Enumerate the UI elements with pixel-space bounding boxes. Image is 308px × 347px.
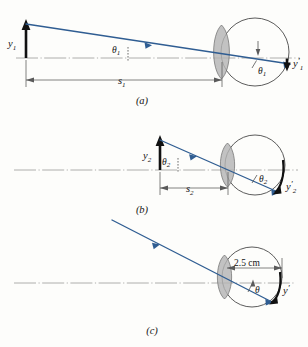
angle-label-a: θ1 (112, 45, 120, 57)
object-label-b: y2 (142, 150, 152, 164)
image-label-a: y′1 (292, 56, 303, 72)
panel-label-a: (a) (136, 95, 149, 107)
angle-mark-inside-a (252, 61, 257, 69)
eye-diameter-label-c: 2.5 cm (234, 258, 260, 268)
angle-label-inside-a: θ1 (258, 66, 266, 78)
panel-label-c: (c) (146, 325, 158, 337)
image-height-indicator-head-a (256, 49, 261, 56)
distance-dim-head-left-b (160, 186, 168, 191)
panel-b: y2 θ2 θ2 s2 y′2 (b) (14, 135, 298, 216)
panel-label-b: (b) (136, 204, 149, 216)
image-label-c: y′ (282, 283, 291, 296)
distance-dim-head-left-a (26, 78, 34, 83)
optics-figure: y1 θ1 θ1 s1 y′1 (a) (0, 0, 308, 347)
distance-label-b: s2 (186, 183, 194, 197)
distance-label-a: s1 (118, 75, 126, 89)
image-label-b: y′2 (285, 179, 297, 195)
angle-label-c: θ (255, 285, 260, 295)
image-arc-b (275, 160, 283, 193)
panel-a: y1 θ1 θ1 s1 y′1 (a) (7, 18, 303, 107)
angle-label-b: θ2 (162, 157, 171, 169)
eyeball-outline-a (221, 18, 289, 86)
eye-lens-b (220, 143, 234, 187)
object-label-a: y1 (7, 38, 16, 52)
ray-b (160, 140, 278, 192)
panel-c: 2.5 cm θ y′ (c) (14, 220, 296, 337)
